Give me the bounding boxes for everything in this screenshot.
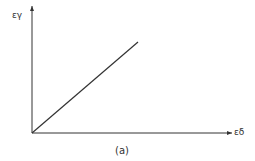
figure-caption: (a) <box>115 146 129 156</box>
linear-relation-line <box>32 42 138 133</box>
strain-diagram <box>0 0 255 161</box>
y-axis-label: εγ <box>12 11 22 20</box>
x-axis-label: εδ <box>234 128 244 137</box>
